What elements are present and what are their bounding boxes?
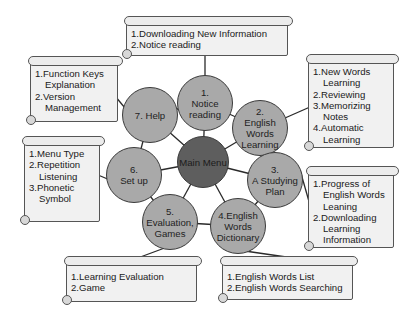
note-item: 2.Reviewing xyxy=(313,89,391,100)
note-item: 2.Repetition Listening xyxy=(29,159,97,182)
note-item: 1.Menu Type xyxy=(29,148,97,159)
note-dictionary: 1.English Words List 2.English Words Sea… xyxy=(222,260,353,300)
note-notice-reading: 1.Downloading New Information 2.Notice r… xyxy=(126,20,288,56)
node-help: 7. Help xyxy=(122,87,178,143)
note-item: 1.New Words Learning xyxy=(313,66,391,89)
note-item: 3.Memorizing Notes xyxy=(313,100,391,123)
main-menu-diagram: 1.Downloading New Information 2.Notice r… xyxy=(0,0,418,318)
node-evaluation-games: 5. Evaluation, Games xyxy=(142,194,198,250)
note-item: 3.Phonetic Symbol xyxy=(29,182,97,205)
node-set-up: 6. Set up xyxy=(106,147,162,203)
node-main-menu: Main Menu xyxy=(177,136,229,188)
note-help: 1.Function Keys Explanation 2.Version Ma… xyxy=(30,60,118,122)
note-item: 1.Downloading New Information xyxy=(131,28,285,39)
node-english-words-dictionary: 4.English Words Dictionary xyxy=(210,198,266,254)
note-item: 2.Notice reading xyxy=(131,39,285,50)
note-studying-plan: 1.Progress of English Words Leaning 2.Do… xyxy=(308,170,394,248)
node-studying-plan: 3. A Studying Plan xyxy=(247,152,303,208)
note-item: 2.Version Management xyxy=(35,91,115,114)
note-item: 1.Learning Evaluation xyxy=(71,271,194,282)
note-setup: 1.Menu Type 2.Repetition Listening 3.Pho… xyxy=(24,140,100,222)
note-item: 1.English Words List xyxy=(227,271,350,282)
note-item: 2.English Words Searching xyxy=(227,282,350,293)
node-notice-reading: 1. Notice reading xyxy=(177,75,233,131)
node-english-words-learning: 2. English Words Learning xyxy=(232,100,288,156)
note-item: 1.Function Keys Explanation xyxy=(35,68,115,91)
note-item: 2.Game xyxy=(71,282,194,293)
note-evaluation: 1.Learning Evaluation 2.Game xyxy=(66,260,197,302)
note-words-learning: 1.New Words Learning 2.Reviewing 3.Memor… xyxy=(308,58,394,148)
note-item: 1.Progress of English Words Leaning xyxy=(313,178,391,212)
note-item: 4.Automatic Learning xyxy=(313,122,391,145)
note-item: 2.Downloading Learning Information xyxy=(313,212,391,246)
